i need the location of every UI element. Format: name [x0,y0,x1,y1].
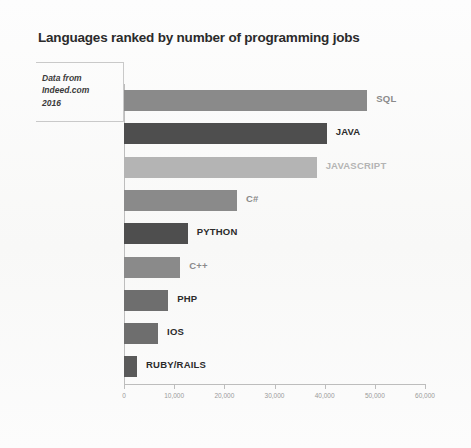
x-tick-mark [425,384,426,389]
bar[interactable] [124,323,158,344]
bar-label: PYTHON [197,226,238,237]
plot-area: 010,00020,00030,00040,00050,00060,000 SQ… [124,84,425,384]
x-tick-mark [375,384,376,389]
chart-page: Languages ranked by number of programmin… [0,0,471,448]
bar-row[interactable]: C# [124,184,425,217]
bar[interactable] [124,123,327,144]
bar-label: PHP [177,293,197,304]
bar-row[interactable]: RUBY/RAILS [124,350,425,383]
x-tick-label: 20,000 [214,392,234,399]
bar-label: RUBY/RAILS [146,359,206,370]
bar-row[interactable]: IOS [124,317,425,350]
x-tick-label: 30,000 [265,392,285,399]
x-tick-label: 40,000 [315,392,335,399]
bar[interactable] [124,157,317,178]
x-tick-mark [275,384,276,389]
bar[interactable] [124,356,137,377]
bar-row[interactable]: JAVA [124,117,425,150]
bar[interactable] [124,290,168,311]
bar-row[interactable]: PHP [124,284,425,317]
bar-label: SQL [376,93,396,104]
x-tick-label: 10,000 [164,392,184,399]
bar[interactable] [124,90,367,111]
x-tick-mark [224,384,225,389]
source-annotation-box: Data from Indeed.com 2016 [36,62,124,122]
x-tick-label: 60,000 [415,392,435,399]
bar[interactable] [124,223,188,244]
bar[interactable] [124,190,237,211]
x-tick-mark [124,384,125,389]
page-title: Languages ranked by number of programmin… [38,30,360,45]
source-line-2: Indeed.com [42,84,117,96]
source-line-3: 2016 [42,97,117,109]
bar-label: IOS [167,326,184,337]
source-line-1: Data from [42,72,117,84]
bar-row[interactable]: C++ [124,251,425,284]
bar-row[interactable]: JAVASCRIPT [124,151,425,184]
x-tick-mark [174,384,175,389]
x-tick-mark [325,384,326,389]
bar-row[interactable]: PYTHON [124,217,425,250]
bar-label: C++ [189,260,208,271]
bar[interactable] [124,257,180,278]
bar-label: JAVA [336,126,361,137]
x-tick-label: 50,000 [365,392,385,399]
x-tick-label: 0 [122,392,126,399]
bar-label: C# [246,193,259,204]
bar-row[interactable]: SQL [124,84,425,117]
bar-label: JAVASCRIPT [326,160,387,171]
